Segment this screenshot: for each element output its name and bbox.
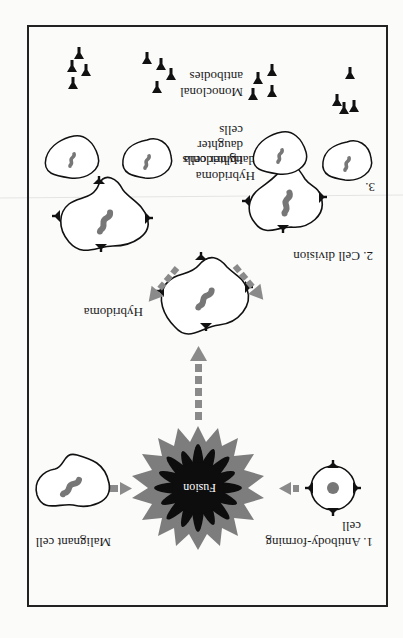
step1-group: 1. Antibody-forming cell (35, 426, 373, 550)
antibody-icon (345, 67, 355, 79)
step3-daughter-label-line1: Hybridoma (184, 153, 243, 168)
hybridoma-diagram: 1. Antibody-forming cell (0, 0, 403, 638)
arrow-to-fusion-right (109, 482, 132, 495)
fusion-burst: Fusion (132, 426, 264, 550)
antibody-icon (267, 64, 277, 76)
antibody-icon (349, 100, 359, 112)
step3-label: 3. (365, 180, 375, 195)
diagram-rotated-container: 1. Antibody-forming cell (0, 0, 403, 638)
fusion-label: Fusion (183, 481, 216, 495)
antibody-icon (156, 58, 166, 70)
monoclonal-label-line1: Monoclonal (180, 85, 243, 100)
hybridoma-daughter-cell-right (52, 176, 153, 252)
step3-daughter-cell-3 (123, 139, 172, 178)
step3-daughter-cell-2 (253, 132, 306, 175)
antibody-icon (81, 64, 91, 76)
antibody-icon (253, 72, 263, 84)
arrow-fusion-to-hybridoma (190, 346, 207, 420)
antibody-icon (152, 81, 162, 93)
step1-label: 1. Antibody-forming (265, 535, 373, 550)
nucleus-icon (327, 482, 339, 494)
antibody-icon (68, 77, 78, 89)
step3-daughter-cell-1 (323, 141, 372, 180)
antibody-cluster-4 (67, 47, 91, 89)
antibody-icon (67, 60, 77, 72)
malignant-cell (36, 454, 109, 506)
malignant-cell-label: Malignant cell (35, 535, 111, 550)
hybridoma-daughter-label-line1: Hybridoma (196, 169, 255, 184)
antibody-icon (267, 85, 277, 97)
hybridoma-cell (156, 252, 253, 334)
step3-daughter-label-line2: daughter (197, 138, 243, 153)
arrow-to-fusion-left (279, 482, 299, 495)
antibody-icon (332, 94, 342, 106)
antibody-icon (166, 68, 176, 80)
antibody-icon (248, 88, 258, 100)
antibody-icon (142, 52, 152, 64)
step2-group: Hybridoma 2. Cell division (52, 153, 373, 334)
antibody-icon (74, 47, 84, 59)
antibody-cluster-3 (142, 52, 176, 93)
antibody-forming-cell (305, 460, 361, 516)
step3-daughter-cell-4 (45, 136, 98, 179)
step1-label-line2: cell (342, 519, 361, 534)
hybridoma-label: Hybridoma (84, 305, 143, 320)
step3-daughter-label-line3: cells (219, 123, 243, 138)
antibody-cluster-1 (332, 67, 359, 114)
step2-label: 2. Cell division (293, 249, 373, 264)
antibody-cluster-2 (248, 64, 277, 100)
monoclonal-label-line2: antibodies (190, 69, 243, 84)
